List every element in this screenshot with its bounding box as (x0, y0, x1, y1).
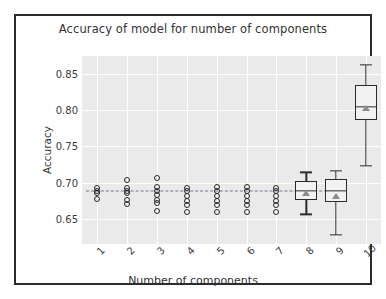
gridline-horizontal (82, 74, 381, 75)
scatter-point (94, 196, 100, 202)
x-tick-label: 4 (184, 245, 196, 257)
scatter-point (273, 202, 279, 208)
gridline-vertical (157, 56, 158, 244)
scatter-point (154, 208, 160, 214)
scatter-point (214, 202, 220, 208)
gridline-vertical (247, 56, 248, 244)
x-axis-ticks: 12345678910 (82, 247, 381, 277)
x-axis-label: Number of components (16, 274, 370, 287)
scatter-point (154, 175, 160, 181)
scatter-point (124, 177, 130, 183)
scatter-point (124, 190, 130, 196)
x-tick-label: 2 (125, 245, 137, 257)
x-tick-label: 1 (95, 245, 107, 257)
scatter-point (244, 202, 250, 208)
x-tick-label: 8 (304, 245, 316, 257)
y-tick-label: 0.70 (34, 177, 78, 188)
chart-title: Accuracy of model for number of componen… (16, 22, 370, 36)
x-tick-label: 7 (274, 245, 286, 257)
boxplot-whisker-cap (330, 234, 342, 235)
gridline-vertical (276, 56, 277, 244)
scatter-point (244, 209, 250, 215)
figure-frame: Accuracy of model for number of componen… (14, 14, 372, 285)
plot-area (82, 56, 381, 244)
boxplot-mean-marker (302, 190, 310, 196)
boxplot-box (355, 85, 377, 120)
y-tick-label: 0.80 (34, 105, 78, 116)
scatter-point (273, 209, 279, 215)
scatter-point (124, 201, 130, 207)
boxplot-whisker-cap (330, 170, 342, 171)
scatter-point (184, 209, 190, 215)
boxplot-mean-marker (332, 193, 340, 199)
gridline-horizontal (82, 110, 381, 111)
y-tick-label: 0.65 (34, 213, 78, 224)
gridline-vertical (187, 56, 188, 244)
y-tick-label: 0.85 (34, 69, 78, 80)
gridline-horizontal (82, 146, 381, 147)
boxplot-whisker-cap (360, 165, 372, 166)
x-tick-label: 10 (362, 242, 379, 259)
scatter-point (214, 209, 220, 215)
boxplot-mean-marker (362, 105, 370, 111)
x-tick-label: 5 (214, 245, 226, 257)
y-axis-ticks: 0.850.800.750.700.65 (28, 56, 78, 244)
gridline-vertical (306, 56, 307, 244)
gridline-vertical (217, 56, 218, 244)
x-tick-label: 6 (244, 245, 256, 257)
scatter-point (94, 190, 100, 196)
chart-screenshot: Accuracy of model for number of componen… (0, 0, 386, 299)
gridline-vertical (97, 56, 98, 244)
boxplot-whisker-cap (360, 64, 372, 65)
x-tick-label: 3 (155, 245, 167, 257)
y-tick-label: 0.75 (34, 141, 78, 152)
gridline-vertical (127, 56, 128, 244)
boxplot-whisker-cap (300, 214, 312, 215)
scatter-point (154, 200, 160, 206)
boxplot-whisker-cap (300, 172, 312, 173)
x-tick-label: 9 (334, 245, 346, 257)
scatter-point (184, 202, 190, 208)
